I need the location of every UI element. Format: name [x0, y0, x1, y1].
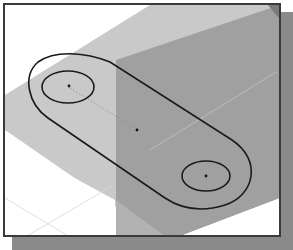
- mid-point: [136, 129, 139, 132]
- isometric-sketch: [5, 5, 279, 235]
- right-center-point: [205, 175, 208, 178]
- drawing-frame: [3, 3, 281, 237]
- left-center-point: [68, 85, 71, 88]
